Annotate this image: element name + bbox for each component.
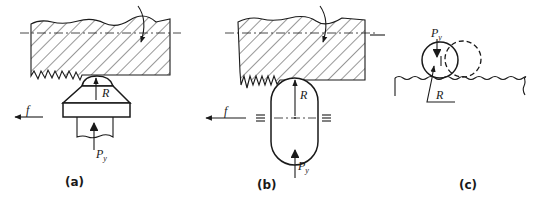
- radius-label-c: R: [435, 88, 444, 102]
- tool-base: [63, 103, 130, 117]
- ball-circle: [422, 42, 458, 78]
- panel-c: Py R (c): [370, 26, 526, 192]
- workpiece-b: [235, 10, 370, 90]
- feed-label-a: f: [26, 103, 31, 117]
- force-label-c: Py: [430, 26, 442, 42]
- tool-dome: [82, 76, 113, 86]
- caption-b: (b): [257, 178, 277, 192]
- wavy-surface: [395, 77, 526, 80]
- radius-label-a: R: [101, 86, 110, 100]
- feed-label-b: f: [224, 104, 229, 118]
- panel-a: R Py f (a): [15, 6, 181, 189]
- roller-center-point: [294, 117, 296, 119]
- tool-shank: [77, 117, 113, 138]
- radius-label-b: R: [299, 88, 308, 102]
- displaced-ball-circle: [445, 41, 481, 77]
- surface-edge-right: [523, 77, 525, 95]
- caption-a: (a): [65, 175, 84, 189]
- guide-mark-left: [256, 115, 265, 121]
- figure-canvas: R Py f (a) R Py f (b): [0, 0, 540, 203]
- caption-c: (c): [459, 178, 477, 192]
- force-label-a: Py: [95, 147, 107, 163]
- panel-b: R Py f (b): [206, 6, 376, 192]
- guide-mark-right: [322, 115, 331, 121]
